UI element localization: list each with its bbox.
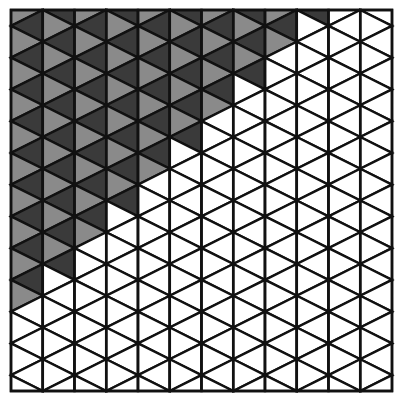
grid-column [360, 10, 392, 391]
grid-column [43, 10, 75, 391]
triangle-grid[interactable] [0, 0, 403, 403]
grid-column [265, 10, 297, 391]
grid-column [202, 10, 234, 391]
triangle-grid-board [0, 0, 403, 403]
grid-column [170, 10, 202, 391]
grid-column [297, 10, 329, 391]
grid-column [106, 10, 138, 391]
grid-column [75, 10, 107, 391]
grid-column [233, 10, 265, 391]
grid-column [138, 10, 170, 391]
grid-column [11, 10, 43, 391]
grid-column [329, 10, 361, 391]
